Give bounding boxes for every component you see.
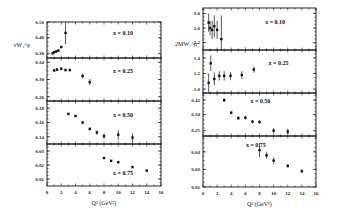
panel-075: 0.020.030.04x = 0.75 <box>191 136 316 190</box>
y-axis-title: 2MW₁^p <box>175 41 197 47</box>
data-point <box>216 29 218 31</box>
data-point <box>131 166 133 168</box>
x-tick-label: 10 <box>116 190 122 195</box>
y-tick-label: 0.40 <box>35 35 44 40</box>
data-point <box>67 113 69 115</box>
data-point <box>146 169 148 171</box>
data-point <box>64 69 66 71</box>
x-tick-label: 2 <box>216 191 219 196</box>
data-point <box>213 25 215 27</box>
x-tick-label: 8 <box>103 190 106 195</box>
data-point <box>207 21 209 23</box>
x-tick-label: 14 <box>144 190 150 195</box>
y-tick-label: 0.18 <box>35 106 44 111</box>
y-tick-label: 1.4 <box>194 56 201 61</box>
data-point <box>237 117 239 119</box>
y-tick-label: 0.30 <box>35 77 44 82</box>
data-point <box>301 170 303 172</box>
y-tick-label: 0.30 <box>35 51 44 56</box>
y-tick-label: 0.50 <box>35 20 44 25</box>
data-point <box>81 75 83 77</box>
data-point <box>265 154 267 156</box>
panel-025: 1.01.21.4x = 0.25 <box>194 50 316 93</box>
y-tick-label: 1.2 <box>194 71 201 76</box>
data-point <box>103 157 105 159</box>
y-tick-label: 0.34 <box>191 112 200 117</box>
panel-075: 0.010.020.03x = 0.75 <box>35 144 161 186</box>
data-point <box>117 161 119 163</box>
panel-050: 0.140.160.18x = 0.50 <box>35 101 161 144</box>
panel-frame <box>47 58 161 101</box>
panel-label: x = 0.10 <box>113 30 133 36</box>
x-tick-label: 0 <box>202 191 205 196</box>
data-point <box>64 32 66 34</box>
x-axis-title: Q² (GeV²) <box>247 201 272 208</box>
x-tick-label: 0 <box>46 190 49 195</box>
data-point <box>117 133 119 135</box>
data-point <box>213 78 215 80</box>
panel-frame <box>203 8 316 50</box>
data-point <box>110 160 112 162</box>
x-tick-label: 4 <box>74 190 77 195</box>
panel-label: x = 0.25 <box>113 68 133 74</box>
x-tick-label: 10 <box>271 191 277 196</box>
y-axis-title: νW₂^p <box>14 42 30 48</box>
data-point <box>230 112 232 114</box>
data-point <box>74 115 76 117</box>
data-point <box>211 29 213 31</box>
x-tick-label: 2 <box>60 190 63 195</box>
panel-label: x = 0.25 <box>269 60 289 66</box>
data-point <box>220 38 222 40</box>
x-tick-label: 16 <box>314 191 320 196</box>
y-tick-label: 0.03 <box>191 167 200 172</box>
data-point <box>210 62 212 64</box>
y-tick-label: 0.04 <box>191 150 200 155</box>
panel-frame <box>47 144 161 186</box>
panel-label: x = 0.50 <box>250 98 270 104</box>
panel-025: 0.260.300.34x = 0.25 <box>35 58 161 101</box>
x-tick-label: 12 <box>285 191 291 196</box>
y-tick-label: 3.0 <box>194 11 201 16</box>
structure-function-chart: 0.300.400.50x = 0.100.260.300.34x = 0.25… <box>0 0 338 217</box>
panel-label: x = 0.50 <box>113 112 133 118</box>
x-tick-label: 14 <box>299 191 305 196</box>
y-tick-label: 0.03 <box>35 149 44 154</box>
data-point <box>272 159 274 161</box>
data-point <box>272 129 274 131</box>
data-point <box>60 46 62 48</box>
x-tick-label: 12 <box>130 190 136 195</box>
data-point <box>209 27 211 29</box>
data-point <box>244 117 246 119</box>
x-tick-label: 6 <box>89 190 92 195</box>
y-tick-label: 0.14 <box>35 135 44 140</box>
panel-label: x = 0.75 <box>113 170 133 176</box>
chart-left: 0.300.400.50x = 0.100.260.300.34x = 0.25… <box>14 20 164 207</box>
data-point <box>56 68 58 70</box>
panel-frame <box>47 22 161 58</box>
data-point <box>53 51 55 53</box>
data-point <box>229 75 231 77</box>
data-point <box>287 165 289 167</box>
y-tick-label: 0.34 <box>35 60 44 65</box>
data-point <box>207 82 209 84</box>
y-tick-label: 0.02 <box>35 163 44 168</box>
data-point <box>258 121 260 123</box>
data-point <box>60 68 62 70</box>
data-point <box>89 81 91 83</box>
data-point <box>96 131 98 133</box>
panel-010: 2.22.63.0x = 0.10 <box>194 8 316 50</box>
data-point <box>103 135 105 137</box>
data-point <box>223 99 225 101</box>
panel-050: 0.250.340.42x = 0.50 <box>191 93 316 136</box>
x-tick-label: 16 <box>159 190 165 195</box>
data-point <box>287 130 289 132</box>
panel-label: x = 0.10 <box>265 19 285 25</box>
data-point <box>218 75 220 77</box>
data-point <box>55 50 57 52</box>
panel-010: 0.300.400.50x = 0.10 <box>35 20 161 58</box>
data-point <box>57 49 59 51</box>
y-tick-label: 0.16 <box>35 120 44 125</box>
x-tick-label: 4 <box>230 191 233 196</box>
data-point <box>251 120 253 122</box>
data-point <box>89 128 91 130</box>
